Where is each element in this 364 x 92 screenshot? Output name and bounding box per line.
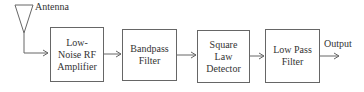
block-label-line: Filter xyxy=(273,56,312,68)
block-label-line: Low Pass xyxy=(273,44,312,56)
block-low-pass-filter: Low Pass Filter xyxy=(265,29,320,83)
block-label-line: Bandpass xyxy=(130,43,168,55)
block-low-noise-rf-amplifier: Low- Noise RF Amplifier xyxy=(50,27,104,82)
block-label-line: Detector xyxy=(206,63,240,75)
antenna-label: Antenna xyxy=(35,1,69,13)
block-label-line: Law xyxy=(206,51,240,63)
antenna-icon xyxy=(15,5,33,33)
block-bandpass-filter: Bandpass Filter xyxy=(122,29,177,81)
block-label-line: Square xyxy=(206,39,240,51)
block-square-law-detector: Square Law Detector xyxy=(197,30,250,83)
block-label-line: Amplifier xyxy=(57,61,96,73)
block-label-line: Low- xyxy=(57,37,96,49)
output-label: Output xyxy=(324,38,352,50)
antenna-feed-line xyxy=(24,33,48,53)
block-label-line: Filter xyxy=(130,55,168,67)
block-label-line: Noise RF xyxy=(57,49,96,61)
